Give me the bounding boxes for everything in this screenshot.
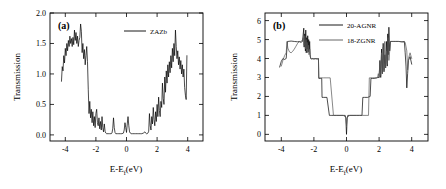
panel-a-xaxis-title: E-Ef(eV) (110, 164, 143, 176)
panel-b-yaxis-title: Transmission (229, 52, 239, 101)
panel-a-tag: (a) (58, 20, 70, 32)
b-xticklabel: -2 (311, 145, 318, 154)
legend-label-zazb: ZAZb (150, 28, 168, 36)
panel-b-svg: -4-2024 0123456 (b) 20-AGNR 18-ZGNR E-Ef… (223, 0, 446, 189)
panel-a-xaxis-title-unit: (eV) (126, 164, 143, 174)
b-yticklabel: 4 (257, 55, 261, 64)
panel-a-x-ticklabels: -4-2024 (62, 145, 190, 154)
b-xticklabel: 0 (345, 145, 349, 154)
panel-b-xaxis-title: E-Ef(eV) (330, 164, 363, 176)
panel-a-xaxis-title-main: E-E (110, 164, 124, 174)
a-yticklabel: 1.5 (36, 39, 46, 48)
legend-label-agnr: 20-AGNR (347, 22, 376, 30)
b-xticklabel: -4 (278, 145, 285, 154)
panel-b-y-ticklabels: 0123456 (257, 17, 261, 140)
b-yticklabel: 1 (257, 111, 261, 120)
panel-b-plot-area: -4-2024 0123456 (257, 13, 428, 154)
legend-label-zgnr: 18-ZGNR (347, 37, 376, 45)
b-xticklabel: 2 (377, 145, 381, 154)
a-yticklabel: 0.0 (36, 131, 46, 140)
a-xticklabel: 2 (155, 145, 159, 154)
a-xticklabel: -4 (62, 145, 69, 154)
b-yticklabel: 0 (257, 130, 261, 139)
panel-b-tag: (b) (273, 20, 285, 32)
a-yticklabel: 1.0 (36, 70, 46, 79)
panel-a-frame (50, 13, 203, 141)
b-yticklabel: 2 (257, 92, 261, 101)
a-xticklabel: 4 (186, 145, 190, 154)
panel-b-xaxis-title-main: E-E (330, 164, 344, 174)
a-yticklabel: 2.0 (36, 9, 46, 18)
a-xticklabel: 0 (125, 145, 129, 154)
panel-b: -4-2024 0123456 (b) 20-AGNR 18-ZGNR E-Ef… (223, 0, 446, 189)
b-xticklabel: 4 (410, 145, 414, 154)
panel-a: -4-2024 0.00.51.01.52.0 (a) ZAZb E-Ef(eV… (0, 0, 223, 189)
panel-b-x-ticklabels: -4-2024 (278, 145, 414, 154)
b-yticklabel: 3 (257, 73, 261, 82)
figure-container: -4-2024 0.00.51.01.52.0 (a) ZAZb E-Ef(eV… (0, 0, 446, 189)
panel-a-svg: -4-2024 0.00.51.01.52.0 (a) ZAZb E-Ef(eV… (0, 0, 223, 189)
panel-a-y-ticklabels: 0.00.51.01.52.0 (36, 9, 46, 140)
b-yticklabel: 5 (257, 36, 261, 45)
panel-b-xaxis-title-unit: (eV) (346, 164, 363, 174)
a-yticklabel: 0.5 (36, 100, 46, 109)
b-yticklabel: 6 (257, 17, 261, 26)
panel-a-yaxis-title: Transmission (12, 52, 22, 101)
a-xticklabel: -2 (93, 145, 100, 154)
